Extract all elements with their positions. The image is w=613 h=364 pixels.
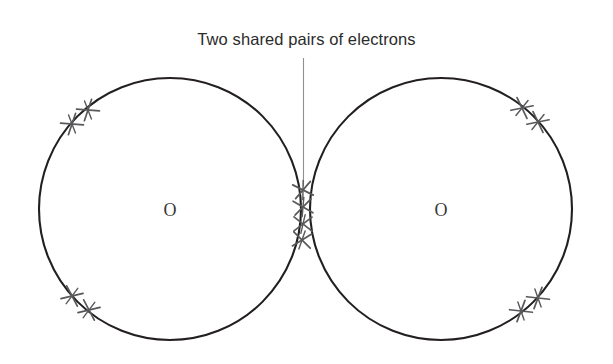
right-atom-label: O [435, 200, 448, 220]
figure-canvas: O O Two shared pairs of el [0, 0, 613, 364]
lewis-structure-diagram: O O [0, 0, 613, 364]
shared-pairs-caption: Two shared pairs of electrons [0, 29, 613, 49]
left-atom-label: O [164, 200, 177, 220]
